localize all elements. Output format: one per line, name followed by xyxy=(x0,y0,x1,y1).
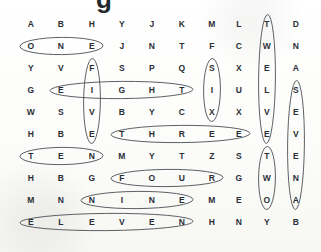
word-search-puzzle: g ABHYJKMLTDONEJNTFCWNYVFSPQSXEAGEIGHTIU… xyxy=(0,0,321,252)
grid-letter: A xyxy=(286,195,306,205)
grid-letter: N xyxy=(142,41,162,51)
grid-letter: B xyxy=(51,19,71,29)
grid-letter: G xyxy=(21,85,41,95)
grid-letter: S xyxy=(51,107,71,117)
grid-letter: H xyxy=(21,129,41,139)
grid-letter: S xyxy=(229,151,249,161)
grid-letter: E xyxy=(172,195,192,205)
grid-letter: H xyxy=(142,129,162,139)
grid-letter: E xyxy=(82,129,102,139)
grid-letter: I xyxy=(202,85,222,95)
grid-letter: N xyxy=(51,41,71,51)
grid-letter: R xyxy=(202,173,222,183)
grid-letter: Y xyxy=(142,151,162,161)
grid-letter: E xyxy=(202,129,222,139)
grid-letter: V xyxy=(286,129,306,139)
grid-letter: G xyxy=(112,85,132,95)
grid-letter: X xyxy=(202,107,222,117)
grid-letter: I xyxy=(112,195,132,205)
grid-letter: S xyxy=(202,63,222,73)
grid-letter: E xyxy=(229,129,249,139)
grid-letter: O xyxy=(21,41,41,51)
grid-letter: B xyxy=(51,129,71,139)
grid-letter: E xyxy=(21,217,41,227)
grid-letter: E xyxy=(286,151,306,161)
grid-letter: A xyxy=(21,19,41,29)
grid-letter: E xyxy=(82,41,102,51)
grid-letter: H xyxy=(202,217,222,227)
grid-letter: L xyxy=(257,85,277,95)
grid-letter: B xyxy=(286,217,306,227)
grid-letter: E xyxy=(51,151,71,161)
grid-letter: U xyxy=(229,85,249,95)
grid-letter: E xyxy=(257,129,277,139)
grid-letter: B xyxy=(112,107,132,117)
grid-letter: C xyxy=(229,41,249,51)
grid-letter: E xyxy=(82,217,102,227)
grid-letter: E xyxy=(142,217,162,227)
grid-letter: B xyxy=(51,173,71,183)
grid-letter: V xyxy=(257,107,277,117)
grid-letter: S xyxy=(112,63,132,73)
grid-letter: H xyxy=(142,85,162,95)
grid-letter: C xyxy=(172,107,192,117)
grid-letter: T xyxy=(21,151,41,161)
grid-letter: X xyxy=(229,63,249,73)
grid-letter: W xyxy=(257,173,277,183)
grid-letter: E xyxy=(286,107,306,117)
grid-letter: N xyxy=(82,151,102,161)
grid-letter: R xyxy=(172,129,192,139)
grid-letter: H xyxy=(82,19,102,29)
grid-letter: W xyxy=(257,41,277,51)
grid-letter: J xyxy=(142,19,162,29)
grid-letter: Z xyxy=(202,151,222,161)
grid-letter: K xyxy=(172,19,192,29)
grid-letter: T xyxy=(112,129,132,139)
grid-letter: I xyxy=(82,85,102,95)
grid-letter: T xyxy=(257,19,277,29)
letter-grid: ABHYJKMLTDONEJNTFCWNYVFSPQSXEAGEIGHTIULS… xyxy=(0,0,321,252)
grid-letter: L xyxy=(229,19,249,29)
grid-letter: Y xyxy=(112,19,132,29)
grid-letter: N xyxy=(172,217,192,227)
grid-letter: V xyxy=(112,217,132,227)
grid-letter: M xyxy=(21,195,41,205)
grid-letter: E xyxy=(257,63,277,73)
grid-letter: N xyxy=(82,195,102,205)
grid-letter: O xyxy=(257,195,277,205)
grid-letter: D xyxy=(286,19,306,29)
grid-letter: A xyxy=(286,63,306,73)
grid-letter: H xyxy=(21,173,41,183)
grid-letter: L xyxy=(51,217,71,227)
grid-letter: O xyxy=(142,173,162,183)
grid-letter: X xyxy=(229,107,249,117)
grid-letter: M xyxy=(202,19,222,29)
grid-letter: F xyxy=(202,41,222,51)
grid-letter: N xyxy=(286,41,306,51)
grid-letter: T xyxy=(257,151,277,161)
grid-letter: N xyxy=(51,195,71,205)
grid-letter: Y xyxy=(142,107,162,117)
grid-letter: T xyxy=(172,41,192,51)
grid-letter: N xyxy=(229,217,249,227)
grid-letter: V xyxy=(82,107,102,117)
grid-letter: V xyxy=(51,63,71,73)
grid-letter: E xyxy=(51,85,71,95)
grid-letter: J xyxy=(112,41,132,51)
grid-letter: N xyxy=(286,173,306,183)
grid-letter: M xyxy=(112,151,132,161)
grid-letter: Y xyxy=(257,217,277,227)
grid-letter: S xyxy=(286,85,306,95)
grid-letter: Q xyxy=(172,63,192,73)
grid-letter: Y xyxy=(21,63,41,73)
grid-letter: E xyxy=(229,195,249,205)
grid-letter: P xyxy=(142,63,162,73)
grid-letter: T xyxy=(172,151,192,161)
grid-letter: W xyxy=(21,107,41,117)
grid-letter: U xyxy=(172,173,192,183)
grid-letter: F xyxy=(112,173,132,183)
grid-letter: M xyxy=(202,195,222,205)
grid-letter: N xyxy=(142,195,162,205)
grid-letter: F xyxy=(82,63,102,73)
grid-letter: G xyxy=(229,173,249,183)
